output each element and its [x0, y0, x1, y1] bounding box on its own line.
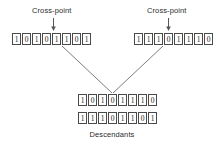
bit-cell: 1: [154, 33, 163, 45]
bit-cell: 1: [78, 94, 87, 106]
bit-cell: 0: [204, 33, 213, 45]
cross-point-right-label: Cross-point: [147, 6, 186, 15]
bit-cell: 1: [148, 112, 157, 124]
bit-cell: 1: [128, 94, 137, 106]
bit-cell: 1: [174, 33, 183, 45]
bit-cell: 1: [98, 94, 107, 106]
cross-point-right-arrow-icon: [164, 18, 173, 31]
bit-cell: 1: [78, 112, 87, 124]
bit-cell: 0: [108, 112, 117, 124]
bit-cell: 0: [108, 94, 117, 106]
bit-cell: 1: [138, 94, 147, 106]
bit-cell: 1: [184, 33, 193, 45]
bit-cell: 1: [194, 33, 203, 45]
bit-cell: 1: [88, 112, 97, 124]
bit-cell: 1: [82, 33, 91, 45]
bit-cell: 1: [52, 33, 61, 45]
bit-cell: 0: [138, 112, 147, 124]
bit-cell: 1: [12, 33, 21, 45]
crossover-diagram: Cross-point Cross-point 1 0 1 0 1 1 0 1 …: [0, 0, 224, 147]
bit-cell: 1: [62, 33, 71, 45]
cross-point-left-label: Cross-point: [32, 6, 71, 15]
bit-cell: 0: [72, 33, 81, 45]
parent-right-bitstring: 1 1 1 0 1 1 1 0: [134, 33, 213, 45]
bit-cell: 1: [118, 112, 127, 124]
descendant-two-bitstring: 1 1 1 0 1 1 0 1: [78, 112, 157, 124]
bit-cell: 0: [164, 33, 173, 45]
bit-cell: 1: [98, 112, 107, 124]
bit-cell: 1: [32, 33, 41, 45]
bit-cell: 1: [118, 94, 127, 106]
bit-cell: 1: [128, 112, 137, 124]
bit-cell: 0: [88, 94, 97, 106]
bit-cell: 1: [134, 33, 143, 45]
descendants-label: Descendants: [0, 130, 224, 139]
parent-left-bitstring: 1 0 1 0 1 1 0 1: [12, 33, 91, 45]
bit-cell: 1: [144, 33, 153, 45]
crossover-connector-lines: [0, 0, 224, 147]
bit-cell: 0: [148, 94, 157, 106]
cross-point-left-arrow-icon: [49, 18, 58, 31]
descendant-one-bitstring: 1 0 1 0 1 1 1 0: [78, 94, 157, 106]
bit-cell: 0: [42, 33, 51, 45]
bit-cell: 0: [22, 33, 31, 45]
